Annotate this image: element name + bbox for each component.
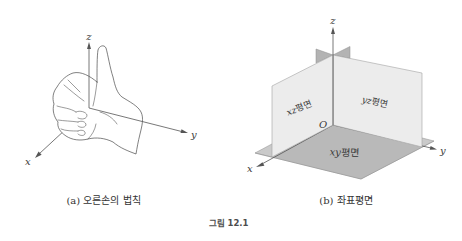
panel-a-x-axis: x xyxy=(25,129,66,167)
figure-number-label: 그림 12.1 xyxy=(209,218,249,228)
panel-a-caption: (a) 오른손의 법칙 xyxy=(66,195,140,206)
y-axis-arrowhead-icon xyxy=(181,129,189,133)
xy-plane-label-var: xy xyxy=(329,146,341,158)
panel-b-y-label: y xyxy=(439,145,446,156)
figure-12-1: x z xyxy=(0,0,462,241)
z-axis-arrowhead-icon xyxy=(331,27,335,34)
xy-plane-label-word: 평면 xyxy=(341,147,360,159)
panel-a-z-label: z xyxy=(85,31,92,42)
xy-plane-label: xy평면 xyxy=(329,146,359,159)
panel-a-x-label: x xyxy=(25,156,31,167)
panel-b-z-label: z xyxy=(329,15,336,26)
panel-a-y-label: y xyxy=(190,129,197,140)
panel-a-right-hand-rule: x z xyxy=(25,31,197,206)
y-axis-arrowhead-icon xyxy=(430,146,437,150)
panel-b-coordinate-planes: x y z xz평면 yz평면 xy평면 O xyxy=(247,15,446,206)
origin-label: O xyxy=(319,119,327,130)
panel-b-caption: (b) 좌표평면 xyxy=(319,195,372,206)
z-axis-arrowhead-icon xyxy=(87,42,91,49)
right-hand-icon xyxy=(53,46,143,154)
panel-b-x-label: x xyxy=(247,163,253,174)
